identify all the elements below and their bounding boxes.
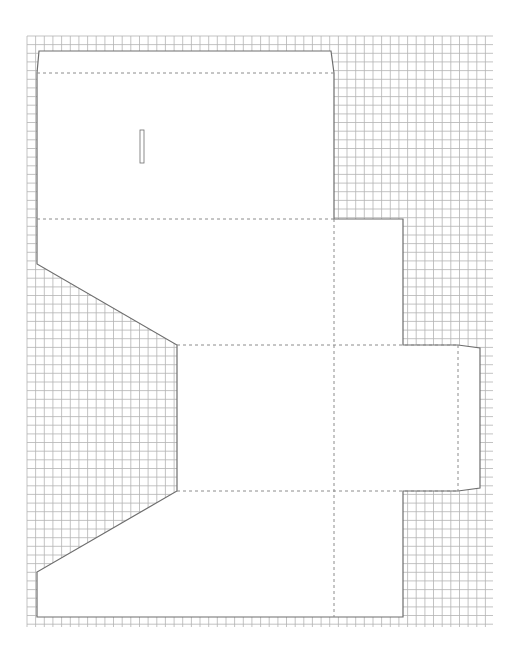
template-outline: [37, 51, 480, 617]
die-cut-template-diagram: [0, 0, 517, 655]
tab-slot: [140, 130, 144, 163]
